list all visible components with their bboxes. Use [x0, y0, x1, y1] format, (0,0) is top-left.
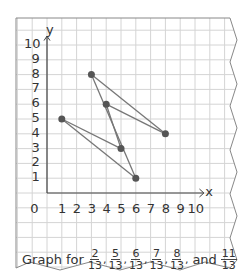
x-tick-label: 9 [176, 201, 184, 216]
y-tick-label: 7 [32, 80, 40, 95]
y-tick-label: 6 [32, 95, 40, 110]
x-tick-label: 1 [58, 201, 66, 216]
line-segments [62, 75, 166, 179]
x-tick-label: 4 [102, 201, 110, 216]
data-point [132, 175, 139, 182]
x-axis-label: x [205, 184, 213, 199]
y-tick-label: 8 [32, 66, 40, 81]
fraction-last: 11 13 [221, 248, 237, 271]
fraction: 813 [170, 248, 184, 271]
x-tick-label: 2 [73, 201, 81, 216]
fraction: 713 [149, 248, 163, 271]
y-axis-label: y [46, 22, 54, 37]
y-tick-label: 5 [32, 110, 40, 125]
caption-prefix: Graph for [22, 252, 84, 267]
y-tick-label: 9 [32, 51, 40, 66]
y-tick-label: 1 [32, 169, 40, 184]
y-tick-label: 4 [32, 125, 40, 140]
x-tick-label: 8 [162, 201, 170, 216]
data-point [58, 116, 65, 123]
x-tick-label: 6 [132, 201, 140, 216]
y-tick-label: 3 [32, 140, 40, 155]
caption: Graph for 213,513,613,713,813, and 11 13 [22, 248, 238, 271]
paper-edge [16, 18, 237, 270]
data-point [162, 130, 169, 137]
data-point [118, 145, 125, 152]
caption-and: and [192, 252, 216, 267]
data-point [88, 71, 95, 78]
y-tick-label: 2 [32, 154, 40, 169]
data-point [103, 101, 110, 108]
caption-fractions: 213,513,613,713,813, [87, 248, 190, 271]
x-tick-label: 3 [88, 201, 96, 216]
y-tick-label: 10 [24, 36, 41, 51]
fraction: 213 [88, 248, 102, 271]
fraction: 613 [129, 248, 143, 271]
x-tick-label: 0 [30, 201, 38, 216]
x-tick-label: 10 [188, 201, 205, 216]
x-tick-label: 7 [147, 201, 155, 216]
x-tick-label: 5 [117, 201, 125, 216]
fraction: 513 [108, 248, 122, 271]
